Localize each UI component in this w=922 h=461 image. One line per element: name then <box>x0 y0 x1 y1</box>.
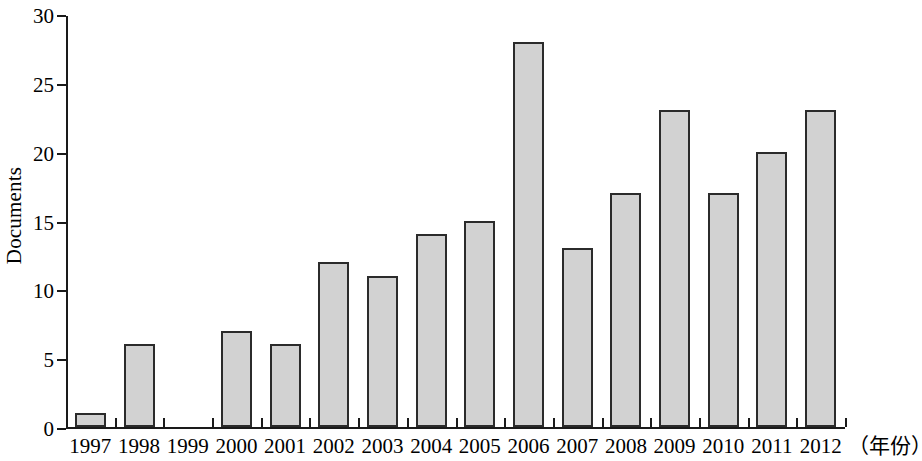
bar <box>75 413 106 427</box>
x-axis-tick-label: 1998 <box>118 433 160 459</box>
x-axis-tick <box>796 418 798 427</box>
x-axis-tick <box>553 418 555 427</box>
x-axis-tick-label: 1997 <box>69 433 111 459</box>
bar <box>805 110 836 427</box>
bar <box>270 344 301 427</box>
y-axis-tick <box>57 153 66 155</box>
y-axis-tick-label: 30 <box>10 6 54 27</box>
x-axis-tick-label: 2004 <box>410 433 452 459</box>
y-axis-tick-label: 20 <box>10 143 54 164</box>
y-axis-tick <box>57 84 66 86</box>
y-axis-tick-label: 5 <box>10 350 54 371</box>
x-axis-tick <box>163 418 165 427</box>
y-axis-tick <box>57 15 66 17</box>
x-axis-tick <box>115 418 117 427</box>
x-axis-tick <box>748 418 750 427</box>
bar <box>513 42 544 427</box>
y-axis-tick <box>57 359 66 361</box>
x-axis-tick-label: 2011 <box>751 433 792 459</box>
x-axis-tick-label: 1999 <box>167 433 209 459</box>
x-axis-tick <box>456 418 458 427</box>
x-axis-tick-label: 2001 <box>264 433 306 459</box>
y-axis-tick-label: 25 <box>10 74 54 95</box>
x-axis-tick-label: 2009 <box>654 433 696 459</box>
bar <box>318 262 349 427</box>
x-axis-unit-label: （年份） <box>848 433 922 459</box>
x-axis-tick <box>504 418 506 427</box>
x-axis-tick-label: 2003 <box>361 433 403 459</box>
bar <box>367 276 398 427</box>
bar <box>708 193 739 427</box>
y-axis-tick-label: 15 <box>10 212 54 233</box>
bar-chart: Documents 051015202530 （年份） 199719981999… <box>0 0 922 461</box>
x-axis-tick <box>358 418 360 427</box>
bar <box>221 331 252 427</box>
y-axis-line <box>66 16 68 429</box>
bar <box>610 193 641 427</box>
x-axis-tick-label: 2006 <box>508 433 550 459</box>
bar <box>562 248 593 427</box>
x-axis-tick <box>845 418 847 427</box>
x-axis-tick-label: 2000 <box>215 433 257 459</box>
x-axis-tick-label: 2002 <box>313 433 355 459</box>
x-axis-tick <box>66 418 68 427</box>
x-axis-tick-label: 2010 <box>702 433 744 459</box>
y-axis-tick <box>57 290 66 292</box>
plot-area <box>66 16 845 429</box>
x-axis-tick-label: 2007 <box>556 433 598 459</box>
x-axis-tick <box>261 418 263 427</box>
bar <box>756 152 787 427</box>
x-axis-tick-label: 2008 <box>605 433 647 459</box>
bar <box>416 234 447 427</box>
x-axis-tick-label: 2005 <box>459 433 501 459</box>
bar <box>464 221 495 428</box>
x-axis-tick <box>699 418 701 427</box>
x-axis-tick <box>407 418 409 427</box>
y-axis-tick-label: 10 <box>10 281 54 302</box>
y-axis-tick <box>57 428 66 430</box>
x-axis-tick <box>650 418 652 427</box>
bar <box>124 344 155 427</box>
bar <box>659 110 690 427</box>
y-axis-tick <box>57 222 66 224</box>
x-axis-tick-labels: （年份） 19971998199920002001200220032004200… <box>0 433 922 461</box>
x-axis-tick <box>309 418 311 427</box>
x-axis-tick <box>602 418 604 427</box>
x-axis-line <box>66 427 845 429</box>
x-axis-tick <box>212 418 214 427</box>
x-axis-tick-label: 2012 <box>800 433 842 459</box>
